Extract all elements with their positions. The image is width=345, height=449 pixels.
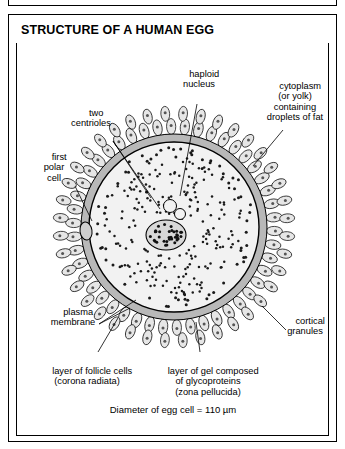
- label-first-polar-cell: first polar cell: [32, 141, 76, 194]
- figure-caption: Diameter of egg cell = 110 µm: [55, 404, 291, 415]
- label-cytoplasm: cytoplasm (or yolk) containing droplets …: [252, 70, 338, 134]
- label-cortical-granules: cortical granules: [274, 305, 336, 347]
- centriole-1: [164, 200, 177, 213]
- label-follicle-cells: layer of follicle cells (corona radiata): [26, 355, 148, 397]
- label-zona-pellucida: layer of gel composed of glycoproteins (…: [146, 355, 270, 408]
- label-plasma-membrane: plasma membrane: [40, 296, 106, 338]
- label-haploid-nucleus: haploid nucleus: [168, 58, 230, 100]
- centriole-2: [175, 209, 186, 220]
- label-two-centrioles: two centrioles: [62, 97, 120, 139]
- figure-page: STRUCTURE OF A HUMAN EGG: [0, 0, 345, 449]
